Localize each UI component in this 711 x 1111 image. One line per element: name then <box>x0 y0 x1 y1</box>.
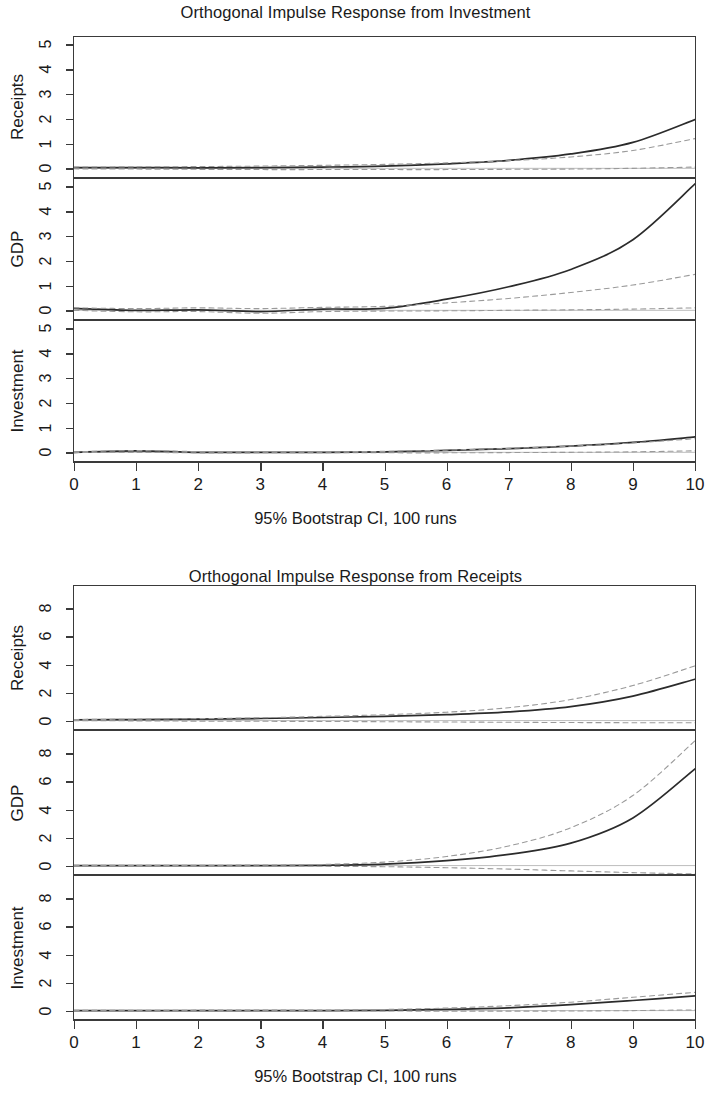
x-tick-label: 2 <box>178 1033 218 1053</box>
panel-plot-area <box>74 321 695 461</box>
y-tick-label: 6 <box>37 625 55 647</box>
y-tick-mark <box>66 452 73 453</box>
y-tick-label: 3 <box>37 83 55 105</box>
y-tick-label: 4 <box>37 654 55 676</box>
x-tick-label: 5 <box>365 475 405 495</box>
y-tick-mark <box>66 328 73 329</box>
x-tick-mark <box>571 463 572 471</box>
x-tick-mark <box>198 1021 199 1029</box>
y-tick-mark <box>66 261 73 262</box>
x-tick-label: 9 <box>613 1033 653 1053</box>
x-tick-label: 7 <box>489 1033 529 1053</box>
plot-panel-gdp <box>73 178 696 320</box>
x-tick-label: 4 <box>302 1033 342 1053</box>
series-irf <box>74 437 695 452</box>
y-tick-label: 8 <box>37 887 55 909</box>
x-tick-mark <box>447 1021 448 1029</box>
y-tick-label: 0 <box>37 710 55 732</box>
y-tick-mark <box>66 926 73 927</box>
series-irf <box>74 184 695 312</box>
x-tick-mark <box>74 1021 75 1029</box>
plot-panel-receipts <box>73 36 696 178</box>
x-tick-mark <box>571 1021 572 1029</box>
x-tick-mark <box>322 1021 323 1029</box>
y-axis-label-investment: Investment <box>8 906 28 989</box>
x-tick-label: 10 <box>675 475 711 495</box>
x-tick-mark <box>136 1021 137 1029</box>
series-ci_lower <box>74 866 695 874</box>
y-tick-mark <box>66 608 73 609</box>
y-tick-label: 8 <box>37 597 55 619</box>
y-tick-label: 0 <box>37 1000 55 1022</box>
x-tick-mark <box>385 463 386 471</box>
y-tick-label: 2 <box>37 827 55 849</box>
x-tick-label: 8 <box>551 1033 591 1053</box>
y-tick-mark <box>66 144 73 145</box>
y-tick-mark <box>66 983 73 984</box>
y-tick-label: 4 <box>37 200 55 222</box>
impulse-response-figure-investment: Orthogonal Impulse Response from Investm… <box>0 0 711 545</box>
x-tick-mark <box>198 463 199 471</box>
impulse-response-figure-receipts: Orthogonal Impulse Response from Receipt… <box>0 545 711 1111</box>
y-tick-label: 2 <box>37 972 55 994</box>
plot-panel-receipts <box>73 585 696 730</box>
x-tick-mark <box>509 1021 510 1029</box>
y-axis-label-gdp: GDP <box>8 784 28 821</box>
y-tick-label: 2 <box>37 682 55 704</box>
y-tick-mark <box>66 781 73 782</box>
y-tick-mark <box>66 211 73 212</box>
y-tick-label: 3 <box>37 225 55 247</box>
figure-title: Orthogonal Impulse Response from Receipt… <box>0 567 711 586</box>
y-tick-mark <box>66 898 73 899</box>
y-tick-mark <box>66 353 73 354</box>
x-tick-mark <box>74 463 75 471</box>
y-tick-mark <box>66 838 73 839</box>
x-tick-label: 6 <box>427 1033 467 1053</box>
panel-plot-area <box>74 37 695 177</box>
y-tick-label: 0 <box>37 855 55 877</box>
y-tick-mark <box>66 403 73 404</box>
x-tick-mark <box>695 1021 696 1029</box>
x-tick-mark <box>509 463 510 471</box>
series-irf <box>74 679 695 720</box>
x-tick-mark <box>260 463 261 471</box>
series-ci_upper <box>74 274 695 308</box>
panel-plot-area <box>74 179 695 319</box>
x-tick-mark <box>695 463 696 471</box>
series-ci_upper <box>74 139 695 168</box>
x-tick-mark <box>447 463 448 471</box>
x-tick-label: 3 <box>240 1033 280 1053</box>
plot-panel-gdp <box>73 730 696 875</box>
x-tick-mark <box>633 1021 634 1029</box>
x-tick-label: 9 <box>613 475 653 495</box>
y-tick-mark <box>66 665 73 666</box>
y-tick-label: 3 <box>37 367 55 389</box>
panel-plot-area <box>74 731 695 874</box>
series-irf <box>74 996 695 1011</box>
figure-caption: 95% Bootstrap CI, 100 runs <box>0 1067 711 1086</box>
panel-plot-area <box>74 586 695 729</box>
x-tick-label: 2 <box>178 475 218 495</box>
y-tick-mark <box>66 69 73 70</box>
x-tick-label: 1 <box>116 1033 156 1053</box>
y-tick-label: 6 <box>37 770 55 792</box>
y-tick-mark <box>66 168 73 169</box>
series-ci_upper <box>74 741 695 866</box>
y-tick-label: 4 <box>37 58 55 80</box>
series-ci_upper <box>74 992 695 1010</box>
figure-caption: 95% Bootstrap CI, 100 runs <box>0 509 711 528</box>
y-tick-label: 4 <box>37 944 55 966</box>
x-tick-mark <box>633 463 634 471</box>
x-tick-mark <box>136 463 137 471</box>
y-tick-label: 0 <box>37 441 55 463</box>
y-tick-mark <box>66 428 73 429</box>
x-tick-label: 10 <box>675 1033 711 1053</box>
y-tick-label: 6 <box>37 915 55 937</box>
y-tick-label: 2 <box>37 250 55 272</box>
x-tick-label: 0 <box>54 475 94 495</box>
y-tick-label: 4 <box>37 342 55 364</box>
y-tick-label: 1 <box>37 275 55 297</box>
y-tick-mark <box>66 753 73 754</box>
y-tick-mark <box>66 186 73 187</box>
y-tick-mark <box>66 44 73 45</box>
